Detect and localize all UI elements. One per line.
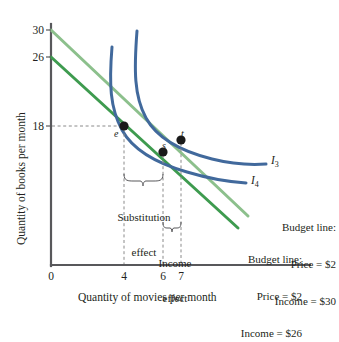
substitution-effect-brace — [124, 174, 163, 186]
point-label-s: s — [162, 141, 166, 152]
y-tick-label-30: 30 — [18, 24, 44, 36]
point-label-e: e — [114, 129, 118, 140]
curve-label-i3: I3 — [271, 154, 279, 170]
curve-label-i4: I4 — [251, 174, 259, 190]
budget-line-26-income: Income = $26 — [190, 327, 302, 339]
y-tick-label-26: 26 — [18, 51, 44, 63]
curve-label-i3-subscript: 3 — [275, 160, 279, 169]
budget-line-26-price: Price = $2 — [190, 290, 302, 302]
data-point-e — [119, 121, 128, 130]
curve-label-i4-subscript: 4 — [255, 180, 259, 189]
x-tick-label-0: 0 — [41, 270, 61, 282]
indifference-curve-i3 — [135, 31, 266, 164]
substitution-effect-label-line1: Substitution — [99, 212, 189, 224]
budget-line-26-annotation: Budget line: Price = $2 Income = $26 — [190, 228, 302, 342]
budget-line-26-title: Budget line: — [190, 253, 302, 265]
point-label-t: t — [181, 129, 184, 140]
y-axis-title: Quantity of books per month — [15, 112, 27, 245]
